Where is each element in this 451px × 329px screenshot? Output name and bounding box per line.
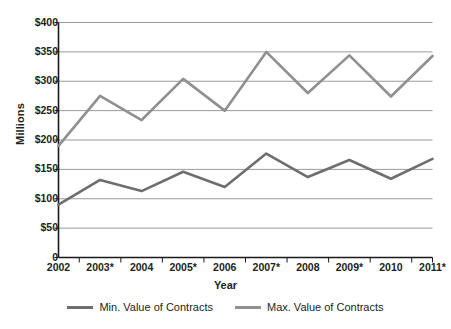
legend-swatch-icon [67, 306, 93, 309]
series-lines [59, 52, 433, 205]
legend-label: Min. Value of Contracts [99, 301, 213, 313]
legend-item[interactable]: Min. Value of Contracts [67, 301, 213, 313]
x-axis-tick-label: 2007* [253, 262, 280, 273]
x-axis-tick-label: 2005* [169, 262, 196, 273]
x-axis-title: Year [0, 279, 451, 291]
x-axis-tick-label: 2006 [213, 262, 236, 273]
series-line [59, 52, 433, 146]
gridlines [59, 23, 433, 229]
chart-legend: Min. Value of ContractsMax. Value of Con… [0, 301, 451, 313]
x-axis-tick-label: 2011* [419, 262, 446, 273]
line-chart: Millions 0$50$100$150$200$250$300$350$40… [0, 0, 451, 329]
x-axis-tick-label: 2004 [130, 262, 153, 273]
x-axis-tick-label: 2010 [379, 262, 402, 273]
x-axis-tick-label: 2009* [336, 262, 363, 273]
x-axis-tick-labels: 20022003*20042005*20062007*20082009*2010… [0, 262, 451, 278]
series-line [59, 154, 433, 205]
legend-swatch-icon [235, 306, 261, 309]
legend-label: Max. Value of Contracts [267, 301, 384, 313]
x-axis-tick-label: 2008 [296, 262, 319, 273]
x-axis-tick-label: 2002 [47, 262, 70, 273]
x-axis-tick-label: 2003* [86, 262, 113, 273]
legend-item[interactable]: Max. Value of Contracts [235, 301, 384, 313]
